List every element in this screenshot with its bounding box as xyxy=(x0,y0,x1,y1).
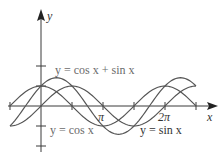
annotation-sin-curve: y = sin x xyxy=(140,123,182,137)
annotation-cos-curve: y = cos x xyxy=(50,123,94,137)
y-axis-label: y xyxy=(46,9,53,23)
tick-label-2pi: 2π xyxy=(158,110,171,124)
axes xyxy=(8,9,218,152)
chart: y x π 2π y = cos x + sin x y = cos x y =… xyxy=(0,0,222,157)
annotation-sum-curve: y = cos x + sin x xyxy=(55,63,135,77)
tick-label-pi: π xyxy=(98,110,105,124)
x-axis-label: x xyxy=(206,110,213,124)
